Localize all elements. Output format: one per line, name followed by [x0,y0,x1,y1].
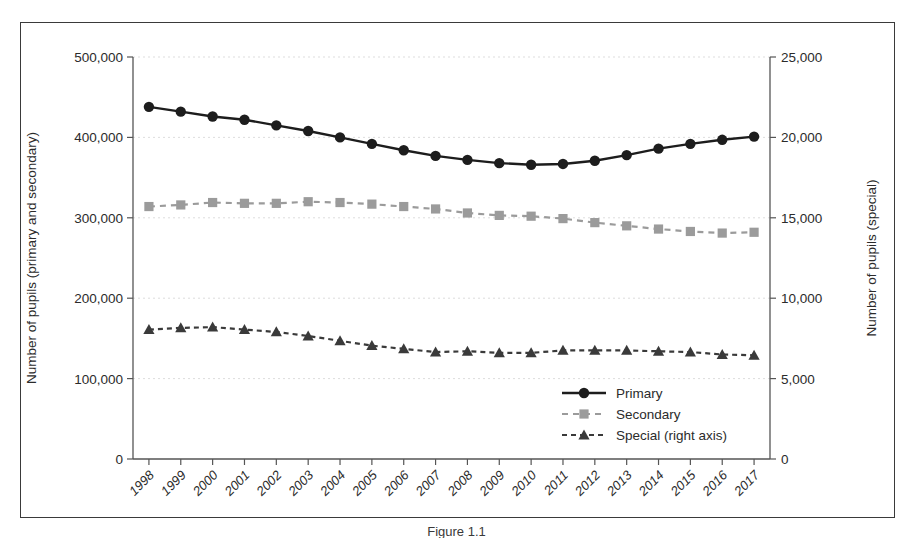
legend-item: Secondary [562,407,681,422]
data-point-marker [654,224,663,233]
x-tick-label: 2015 [667,467,699,499]
x-tick-label: 2007 [412,467,444,499]
data-point-marker [176,106,186,116]
data-point-marker [463,208,472,217]
series-group [143,102,759,360]
x-tick-label: 2016 [699,467,731,499]
data-point-marker [176,200,185,209]
data-point-marker [334,335,345,345]
data-point-marker [579,409,588,418]
x-tick-label: 2017 [730,467,762,499]
y2-tick-label: 25,000 [781,50,822,65]
data-point-marker [590,156,600,166]
data-point-marker [367,139,377,149]
x-tick-label: 1999 [158,468,189,499]
data-point-marker [304,197,313,206]
x-tick-label: 2008 [444,467,476,499]
data-point-marker [621,150,631,160]
data-point-marker [494,158,504,168]
x-tick-label: 2003 [285,467,317,499]
x-tick-label: 2000 [189,467,221,499]
figure-caption: Figure 1.1 [0,524,913,538]
y2-tick-label: 0 [781,452,789,467]
y-tick-label: 0 [115,452,123,467]
data-point-marker [749,131,759,141]
y-tick-label: 300,000 [74,211,123,226]
y2-axis-title: Number of pupils (special) [864,180,879,337]
data-point-marker [686,227,695,236]
data-point-marker [271,120,281,130]
x-tick-label: 2004 [316,468,348,500]
data-point-marker [749,228,758,237]
data-point-marker [685,346,696,356]
y-tick-label: 500,000 [74,50,123,65]
legend-label: Primary [616,386,663,401]
data-point-marker [272,199,281,208]
x-axis-group: 1998199920002001200220032004200520062007… [126,459,770,499]
data-point-marker [144,102,154,112]
legend-item: Primary [562,386,663,401]
data-point-marker [399,145,409,155]
data-point-marker [208,198,217,207]
left-axis-group: 0100,000200,000300,000400,000500,000 [74,50,133,467]
y-tick-label: 400,000 [74,130,123,145]
x-tick-label: 2014 [635,468,667,500]
data-point-marker [430,151,440,161]
data-point-marker [303,126,313,136]
x-tick-label: 1998 [126,467,158,499]
data-point-marker [431,204,440,213]
series-secondary [144,197,758,238]
data-point-marker [399,202,408,211]
x-tick-label: 2002 [253,467,285,499]
data-point-marker [579,388,589,398]
data-point-marker [622,221,631,230]
data-point-marker [271,326,282,336]
series-primary [144,102,760,170]
x-tick-label: 2013 [603,467,635,499]
data-point-marker [557,345,568,355]
data-point-marker [527,212,536,221]
y-tick-label: 100,000 [74,372,123,387]
chart-legend: PrimarySecondarySpecial (right axis) [562,386,727,443]
data-point-marker [239,115,249,125]
data-point-marker [367,200,376,209]
x-tick-label: 2005 [348,467,380,499]
y2-tick-label: 20,000 [781,130,822,145]
x-tick-label: 2006 [380,467,412,499]
data-point-marker [335,132,345,142]
series-special-right-axis [143,322,759,360]
y2-tick-label: 10,000 [781,291,822,306]
data-point-marker [240,199,249,208]
data-point-marker [717,135,727,145]
data-point-marker [621,345,632,355]
data-point-marker [653,143,663,153]
y-axis-title: Number of pupils (primary and secondary) [24,132,39,384]
legend-label: Secondary [616,407,681,422]
data-point-marker [558,214,567,223]
data-point-marker [462,155,472,165]
series-line [149,107,754,165]
data-point-marker [335,198,344,207]
right-axis-group: 05,00010,00015,00020,00025,000 [770,50,822,467]
data-point-marker [590,218,599,227]
data-point-marker [495,211,504,220]
gridlines-group [133,57,770,379]
data-point-marker [526,160,536,170]
y-tick-label: 200,000 [74,291,123,306]
x-tick-label: 2001 [221,468,253,500]
data-point-marker [718,228,727,237]
chart-figure: 0100,000200,000300,000400,000500,000 05,… [0,0,913,538]
data-point-marker [144,202,153,211]
legend-label: Special (right axis) [616,428,727,443]
y2-tick-label: 5,000 [781,372,815,387]
data-point-marker [685,139,695,149]
y2-tick-label: 15,000 [781,211,822,226]
legend-item: Special (right axis) [562,428,727,443]
data-point-marker [558,159,568,169]
x-tick-label: 2010 [507,467,539,499]
x-tick-label: 2011 [540,468,571,499]
data-point-marker [207,111,217,121]
series-line [149,327,754,355]
x-tick-label: 2009 [476,468,508,500]
x-tick-label: 2012 [571,467,603,499]
